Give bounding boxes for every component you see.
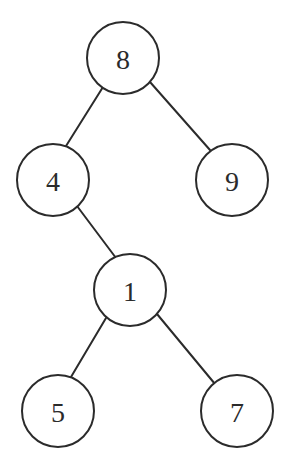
node-label: 4	[46, 166, 60, 197]
edges-layer	[66, 82, 215, 384]
tree-node-7: 7	[201, 375, 273, 447]
edge-n1-n7	[157, 314, 215, 384]
tree-node-9: 9	[196, 144, 268, 216]
binary-tree-diagram: 849157	[0, 0, 289, 469]
node-label: 5	[51, 397, 65, 428]
tree-node-8: 8	[87, 22, 159, 94]
node-label: 1	[123, 276, 137, 307]
tree-node-5: 5	[22, 375, 94, 447]
nodes-layer: 849157	[17, 22, 273, 447]
edge-n1-n5	[71, 318, 106, 377]
edge-n8-n4	[66, 87, 103, 146]
node-label: 7	[230, 397, 244, 428]
edge-n8-n9	[150, 82, 210, 150]
edge-n4-n1	[77, 206, 116, 258]
tree-node-1: 1	[94, 254, 166, 326]
tree-node-4: 4	[17, 144, 89, 216]
node-label: 8	[116, 44, 130, 75]
node-label: 9	[225, 166, 239, 197]
